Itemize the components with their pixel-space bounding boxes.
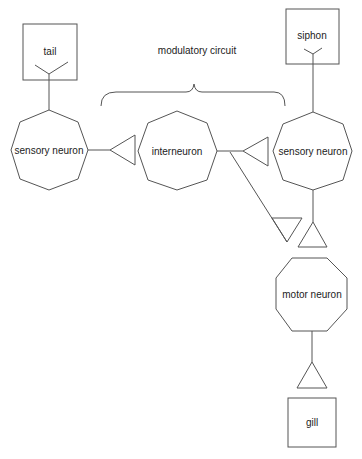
neural-circuit-diagram: modulatory circuit tail sensory neuron i… xyxy=(0,0,362,459)
synapse-triangle-icon xyxy=(298,222,327,247)
sensory-neuron-left-label: sensory neuron xyxy=(15,145,84,156)
tail-label: tail xyxy=(44,46,57,57)
interneuron: interneuron xyxy=(138,111,217,190)
synapse-triangle-icon xyxy=(110,135,135,165)
modulatory-circuit-title: modulatory circuit xyxy=(158,45,237,56)
motor-neuron: motor neuron xyxy=(276,258,347,331)
synapse-triangle-icon xyxy=(297,362,327,388)
modulatory-circuit-bracket xyxy=(101,84,285,106)
receptor-ending-icon xyxy=(304,48,322,64)
sensory-neuron-right: sensory neuron xyxy=(273,112,352,190)
synapse-triangle-icon xyxy=(272,218,302,242)
motor-neuron-label: motor neuron xyxy=(282,289,341,300)
synapse-triangle-icon xyxy=(243,137,268,166)
interneuron-label: interneuron xyxy=(152,146,203,157)
siphon-label: siphon xyxy=(297,30,326,41)
gill-label: gill xyxy=(306,417,318,428)
receptor-ending-icon xyxy=(35,62,68,80)
sensory-neuron-right-label: sensory neuron xyxy=(279,146,348,157)
sensory-neuron-left: sensory neuron xyxy=(11,110,88,190)
gill-effector: gill xyxy=(288,398,336,447)
tail-receptor: tail xyxy=(23,24,77,80)
siphon-receptor: siphon xyxy=(286,9,339,64)
